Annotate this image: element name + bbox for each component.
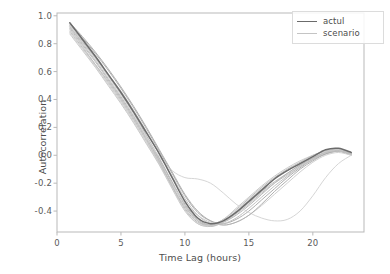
x-tick-label: 15 (243, 238, 254, 248)
y-tick-label: 0.6 (18, 67, 52, 77)
legend-swatch-actul (297, 21, 317, 22)
x-tick-label: 5 (118, 238, 124, 248)
x-tick-label: 20 (307, 238, 318, 248)
legend-label-actul: actul (323, 16, 344, 26)
legend-item-actul: actul (297, 15, 379, 27)
legend-swatch-scenario (297, 33, 317, 34)
x-tick-label: 0 (54, 238, 60, 248)
x-axis-label: Time Lag (hours) (159, 252, 241, 263)
axes-frame (57, 13, 364, 232)
legend-item-scenario: scenario (297, 27, 379, 39)
y-tick-label: 0.8 (18, 39, 52, 49)
y-axis-label: Autocorrelation (37, 100, 48, 175)
autocorrelation-chart-figure: 1.00.80.60.40.20.0-0.2-0.4 05101520 Auto… (0, 0, 390, 274)
legend-label-scenario: scenario (323, 28, 360, 38)
y-tick-label: 1.0 (18, 11, 52, 21)
chart-legend: actul scenario (292, 11, 384, 44)
y-tick-label: -0.4 (18, 206, 52, 216)
y-tick-label: -0.2 (18, 178, 52, 188)
x-tick-label: 10 (179, 238, 190, 248)
